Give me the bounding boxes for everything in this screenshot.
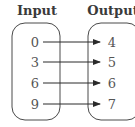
input-value: 6 [31, 77, 39, 90]
input-title: Input [17, 3, 57, 18]
output-value: 5 [108, 56, 116, 69]
output-value: 6 [108, 77, 116, 90]
input-value: 9 [31, 98, 39, 111]
output-value: 7 [108, 98, 116, 111]
output-title: Output [87, 3, 135, 18]
mapping-diagram: Input Output 0 3 6 9 4 5 6 7 [0, 0, 135, 127]
input-value: 0 [31, 36, 39, 49]
input-value: 3 [31, 56, 39, 69]
output-value: 4 [108, 36, 116, 49]
